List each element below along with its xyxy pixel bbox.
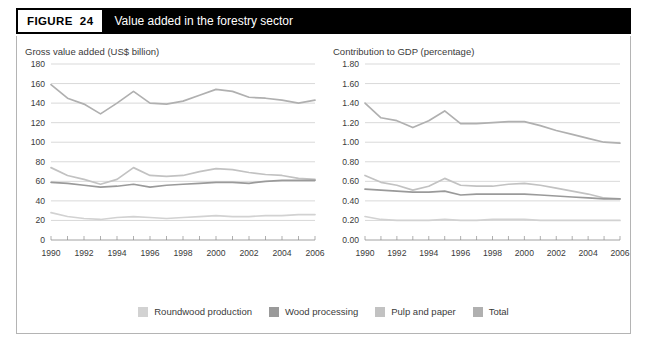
svg-text:180: 180 — [31, 59, 46, 69]
svg-text:160: 160 — [31, 79, 46, 89]
figure-title: Value added in the forestry sector — [102, 8, 293, 34]
svg-text:1.40: 1.40 — [342, 98, 359, 108]
legend-swatch-roundwood-production — [138, 307, 148, 317]
chart-right-plot: 0.000.200.400.600.801.001.201.401.601.80… — [325, 36, 632, 286]
chart-legend: Roundwood production Wood processing Pul… — [17, 306, 630, 317]
figure-tag-number: 24 — [80, 15, 94, 27]
figure-tag: FIGURE 24 — [18, 10, 102, 32]
svg-text:0.20: 0.20 — [342, 215, 359, 225]
svg-text:0: 0 — [40, 235, 45, 245]
svg-text:1994: 1994 — [419, 248, 438, 258]
svg-text:0.60: 0.60 — [342, 176, 359, 186]
svg-text:1994: 1994 — [107, 248, 126, 258]
svg-text:0.80: 0.80 — [342, 157, 359, 167]
svg-text:1.60: 1.60 — [342, 79, 359, 89]
svg-text:40: 40 — [35, 196, 45, 206]
chart-gross-value-added: Gross value added (US$ billion) 02040608… — [17, 36, 327, 286]
svg-text:1996: 1996 — [140, 248, 159, 258]
figure-header: FIGURE 24 Value added in the forestry se… — [16, 8, 631, 34]
svg-text:2002: 2002 — [239, 248, 258, 258]
figure-container: FIGURE 24 Value added in the forestry se… — [0, 0, 647, 347]
svg-text:0.40: 0.40 — [342, 196, 359, 206]
legend-swatch-total — [473, 307, 483, 317]
svg-text:100: 100 — [31, 137, 46, 147]
svg-text:140: 140 — [31, 98, 46, 108]
svg-text:1990: 1990 — [41, 248, 60, 258]
svg-text:1.00: 1.00 — [342, 137, 359, 147]
svg-text:1990: 1990 — [355, 248, 374, 258]
legend-item-pulp-and-paper: Pulp and paper — [375, 306, 455, 317]
svg-text:2004: 2004 — [579, 248, 598, 258]
figure-tag-label: FIGURE — [27, 15, 73, 27]
legend-item-roundwood-production: Roundwood production — [138, 306, 252, 317]
legend-item-wood-processing: Wood processing — [269, 306, 358, 317]
chart-right-axis-title: Contribution to GDP (percentage) — [333, 46, 474, 57]
chart-contribution-to-gdp: Contribution to GDP (percentage) 0.000.2… — [325, 36, 632, 286]
legend-label-total: Total — [489, 306, 509, 317]
svg-text:2000: 2000 — [206, 248, 225, 258]
svg-text:1992: 1992 — [74, 248, 93, 258]
svg-text:1996: 1996 — [451, 248, 470, 258]
legend-label-pulp-and-paper: Pulp and paper — [391, 306, 455, 317]
svg-text:2002: 2002 — [547, 248, 566, 258]
svg-text:80: 80 — [35, 157, 45, 167]
svg-text:1.80: 1.80 — [342, 59, 359, 69]
legend-label-wood-processing: Wood processing — [285, 306, 358, 317]
svg-text:2004: 2004 — [272, 248, 291, 258]
svg-text:20: 20 — [35, 215, 45, 225]
svg-text:1.20: 1.20 — [342, 118, 359, 128]
svg-text:2006: 2006 — [305, 248, 324, 258]
svg-text:2006: 2006 — [610, 248, 629, 258]
svg-text:1998: 1998 — [483, 248, 502, 258]
svg-text:1998: 1998 — [173, 248, 192, 258]
svg-text:1992: 1992 — [387, 248, 406, 258]
svg-text:2000: 2000 — [515, 248, 534, 258]
chart-left-axis-title: Gross value added (US$ billion) — [25, 46, 159, 57]
legend-swatch-wood-processing — [269, 307, 279, 317]
figure-body: Gross value added (US$ billion) 02040608… — [16, 36, 631, 334]
svg-text:0.00: 0.00 — [342, 235, 359, 245]
legend-swatch-pulp-and-paper — [375, 307, 385, 317]
svg-text:60: 60 — [35, 176, 45, 186]
svg-text:120: 120 — [31, 118, 46, 128]
chart-left-plot: 0204060801001201401601801990199219941996… — [17, 36, 327, 286]
legend-item-total: Total — [473, 306, 509, 317]
legend-label-roundwood-production: Roundwood production — [154, 306, 252, 317]
